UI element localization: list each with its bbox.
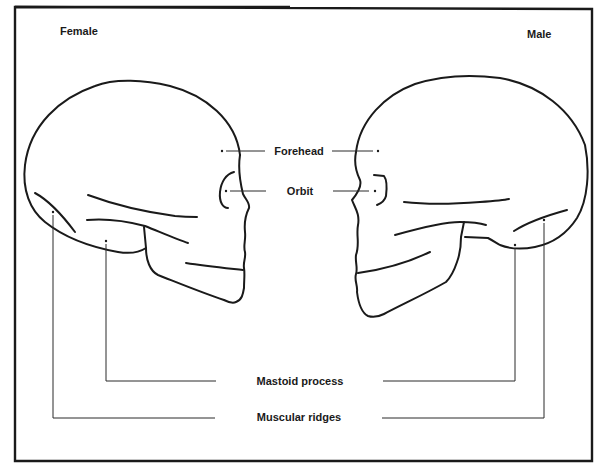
- female-cranium-outline: [24, 81, 240, 253]
- diagram-canvas: Female Male Forehead Orbit Mastoid proce…: [0, 0, 608, 474]
- leader-ridges-female: [53, 215, 215, 418]
- female-orbit: [220, 172, 234, 208]
- male-temporal-line: [404, 199, 509, 204]
- female-temporal-line: [88, 195, 197, 217]
- male-bite-line: [358, 252, 430, 273]
- label-mastoid-process: Mastoid process: [257, 376, 344, 387]
- label-forehead: Forehead: [274, 146, 324, 157]
- diagram-frame: [15, 7, 592, 461]
- female-bite-line: [186, 263, 243, 270]
- skull-comparison-drawing: [0, 0, 608, 474]
- female-skull: [24, 81, 249, 303]
- label-orbit: Orbit: [287, 186, 313, 197]
- male-orbit: [374, 175, 387, 205]
- male-muscular-ridge: [514, 210, 567, 231]
- female-zygomatic-arch: [87, 219, 188, 243]
- male-face-profile: [352, 152, 464, 317]
- leader-mastoid-male: [383, 248, 515, 381]
- female-face-profile: [144, 155, 249, 303]
- label-muscular-ridges: Muscular ridges: [257, 412, 341, 423]
- male-title: Male: [527, 29, 551, 40]
- male-zygomatic-arch: [395, 222, 486, 235]
- female-muscular-ridge: [35, 193, 75, 232]
- female-title: Female: [60, 26, 98, 37]
- leader-ridges-male: [382, 223, 544, 418]
- male-skull: [352, 76, 588, 317]
